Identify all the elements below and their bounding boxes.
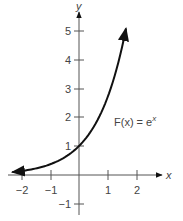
x-tick-label: 1 [105,184,111,196]
function-label: F(x) = ex [114,114,157,128]
x-tick-label: −1 [45,184,58,196]
y-tick-label: 2 [65,111,71,123]
y-tick-label: −1 [58,198,71,210]
y-tick-label: 4 [65,54,71,66]
y-axis-label: y [75,0,83,12]
x-axis-label: x [165,169,172,181]
x-tick-label: 2 [134,184,140,196]
y-tick-label: 5 [65,25,71,37]
x-tick-label: −2 [16,184,29,196]
y-tick-label: 1 [65,140,71,152]
exponential-graph: −2 −1 1 2 5 4 3 2 1 −1 x y F(x) = ex [0,0,183,221]
y-tick-label: 3 [65,83,71,95]
